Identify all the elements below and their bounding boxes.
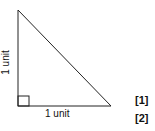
right-angle-marker bbox=[18, 96, 29, 106]
right-triangle bbox=[18, 10, 111, 106]
vertical-side-label: 1 unit bbox=[0, 50, 11, 74]
mark-1: [1] bbox=[135, 94, 148, 106]
mark-2: [2] bbox=[135, 112, 148, 124]
triangle-diagram bbox=[0, 0, 155, 131]
horizontal-side-label: 1 unit bbox=[45, 108, 69, 119]
